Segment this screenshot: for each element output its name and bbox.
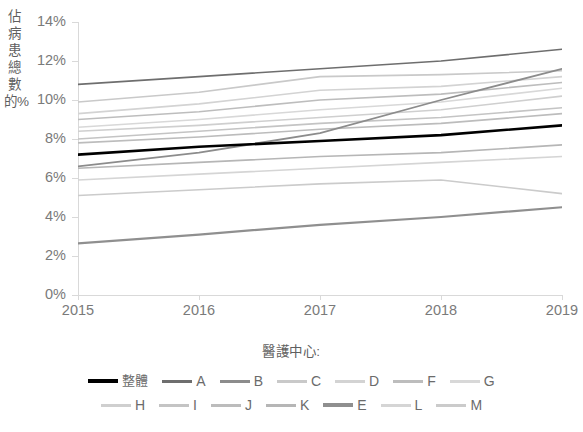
series-line-A <box>78 49 562 84</box>
legend-entry-I[interactable]: I <box>159 397 197 413</box>
legend-entry-A[interactable]: A <box>162 373 205 389</box>
legend-label-整體: 整體 <box>122 373 148 389</box>
legend-swatch-F <box>393 380 423 383</box>
x-tick-label: 2016 <box>164 302 234 318</box>
y-axis-title: 佔病患總數的% <box>4 8 24 110</box>
legend-label-K: K <box>300 397 309 413</box>
legend-label-J: J <box>245 397 252 413</box>
legend-entry-E[interactable]: E <box>323 397 366 413</box>
legend-swatch-G <box>450 380 480 383</box>
legend-row-2: HIJKELM <box>0 393 583 417</box>
legend-swatch-I <box>159 404 189 407</box>
x-tick-mark <box>562 295 563 300</box>
line-chart: 佔病患總數的% 0%2%4%6%8%10%12%14% 201520162017… <box>0 0 583 432</box>
legend-swatch-整體 <box>88 379 118 383</box>
plot-area <box>78 22 562 295</box>
legend-label-H: H <box>135 397 145 413</box>
series-lines <box>78 22 562 295</box>
legend-label-D: D <box>369 373 379 389</box>
y-tick-label: 8% <box>22 131 66 145</box>
legend-swatch-M <box>436 404 466 407</box>
y-tick-label: 2% <box>22 248 66 262</box>
legend-label-E: E <box>357 397 366 413</box>
legend-swatch-B <box>220 380 250 383</box>
x-tick-mark <box>441 295 442 300</box>
x-tick-label: 2015 <box>43 302 113 318</box>
legend-swatch-E <box>323 403 353 407</box>
legend-entry-J[interactable]: J <box>211 397 252 413</box>
y-tick-label: 6% <box>22 170 66 184</box>
legend-entry-M[interactable]: M <box>436 397 482 413</box>
x-tick-label: 2019 <box>527 302 583 318</box>
legend-swatch-L <box>381 404 411 407</box>
legend-swatch-H <box>101 404 131 407</box>
legend-swatch-A <box>162 380 192 383</box>
legend-entry-G[interactable]: G <box>450 373 495 389</box>
series-line-L <box>78 157 562 180</box>
legend-entry-C[interactable]: C <box>277 373 321 389</box>
series-line-D <box>78 77 562 114</box>
legend-label-L: L <box>415 397 423 413</box>
x-tick-mark <box>78 295 79 300</box>
legend-entry-H[interactable]: H <box>101 397 145 413</box>
legend-label-B: B <box>254 373 263 389</box>
legend-entry-整體[interactable]: 整體 <box>88 373 148 389</box>
legend-label-F: F <box>427 373 436 389</box>
legend-row-1: 整體ABCDFG <box>0 369 583 393</box>
legend-swatch-D <box>335 380 365 383</box>
legend-label-A: A <box>196 373 205 389</box>
legend-entry-B[interactable]: B <box>220 373 263 389</box>
legend-entry-F[interactable]: F <box>393 373 436 389</box>
x-tick-mark <box>320 295 321 300</box>
legend-label-M: M <box>470 397 482 413</box>
legend-label-I: I <box>193 397 197 413</box>
x-tick-label: 2018 <box>406 302 476 318</box>
legend-label-C: C <box>311 373 321 389</box>
series-line-M <box>78 180 562 196</box>
series-line-E <box>78 207 562 243</box>
legend-entry-K[interactable]: K <box>266 397 309 413</box>
x-tick-mark <box>199 295 200 300</box>
series-line-K <box>78 145 562 168</box>
legend-swatch-J <box>211 404 241 407</box>
y-tick-label: 0% <box>22 287 66 301</box>
legend-entry-D[interactable]: D <box>335 373 379 389</box>
x-tick-label: 2017 <box>285 302 355 318</box>
legend-swatch-C <box>277 380 307 383</box>
legend-title: 醫護中心: <box>0 340 583 360</box>
legend-entry-L[interactable]: L <box>381 397 423 413</box>
legend-swatch-K <box>266 404 296 407</box>
y-tick-label: 12% <box>22 53 66 67</box>
legend: 醫護中心: 整體ABCDFG HIJKELM <box>0 340 583 417</box>
y-tick-label: 4% <box>22 209 66 223</box>
legend-label-G: G <box>484 373 495 389</box>
y-tick-label: 10% <box>22 92 66 106</box>
y-tick-label: 14% <box>22 14 66 28</box>
